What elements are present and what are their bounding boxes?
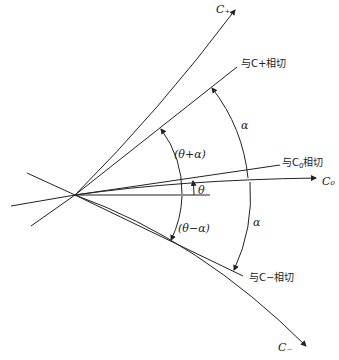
c-minus-curve bbox=[75, 195, 306, 346]
alpha-upper-arc bbox=[212, 88, 248, 178]
c-zero-curve bbox=[75, 178, 316, 195]
crossing-line-lower-left bbox=[31, 195, 75, 226]
c-plus-curve bbox=[75, 10, 235, 195]
characteristic-diagram: C₊ 与C+相切 与C0相切 C₀ 与C−相切 C₋ (θ+α) (θ−α) θ… bbox=[0, 0, 339, 360]
c-minus-label: C₋ bbox=[278, 341, 292, 354]
alpha-lower-arc bbox=[234, 182, 251, 270]
c-plus-tangent-line bbox=[75, 67, 237, 195]
alpha-upper-label: α bbox=[241, 119, 249, 132]
alpha-lower-label: α bbox=[253, 216, 261, 229]
c-minus-tangent-label: 与C−相切 bbox=[249, 271, 294, 283]
c-plus-tangent-label: 与C+相切 bbox=[241, 57, 286, 69]
c-zero-tangent-label: 与C0相切 bbox=[282, 156, 323, 170]
c-minus-tangent-line bbox=[75, 195, 243, 276]
c-zero-label: C₀ bbox=[322, 175, 335, 188]
crossing-line-left bbox=[11, 195, 75, 206]
theta-minus-alpha-label: (θ−α) bbox=[178, 222, 210, 235]
crossing-line-upper-left bbox=[27, 173, 75, 195]
theta-plus-alpha-label: (θ+α) bbox=[174, 148, 206, 161]
c-plus-label: C₊ bbox=[216, 3, 230, 16]
theta-label: θ bbox=[198, 184, 205, 197]
